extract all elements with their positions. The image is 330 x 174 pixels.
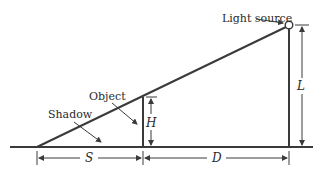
shadow-pointer (74, 122, 101, 142)
shadow-length-label: S (85, 151, 93, 165)
distance-label: D (211, 151, 222, 165)
shadow-label: Shadow (48, 108, 93, 121)
object-pointer (112, 103, 137, 124)
light-ray (37, 27, 286, 147)
object-height-label: H (145, 116, 157, 130)
shadow-diagram: H L S D Light source Object Shadow (0, 0, 330, 174)
light-height-label: L (296, 79, 305, 93)
object-label: Object (89, 90, 126, 103)
